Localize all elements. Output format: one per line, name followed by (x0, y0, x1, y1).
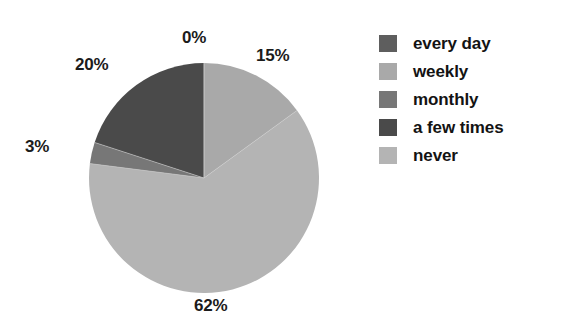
legend-swatch-icon (379, 35, 397, 52)
legend-item-weekly: weekly (379, 59, 575, 84)
legend-swatch-icon (379, 63, 397, 80)
legend-label: never (413, 147, 458, 164)
pie-svg (88, 62, 320, 294)
legend-label: monthly (413, 91, 478, 108)
legend-swatch-icon (379, 119, 397, 136)
chart-legend: every day weekly monthly a few times nev… (379, 31, 575, 171)
legend-item-a-few-times: a few times (379, 115, 575, 140)
legend-item-monthly: monthly (379, 87, 575, 112)
legend-item-every-day: every day (379, 31, 575, 56)
slice-label-a-few-times: 20% (75, 56, 108, 73)
legend-label: a few times (413, 119, 504, 136)
legend-swatch-icon (379, 147, 397, 164)
legend-label: weekly (413, 63, 468, 80)
legend-item-never: never (379, 143, 575, 168)
legend-label: every day (413, 35, 491, 52)
slice-label-every-day: 0% (182, 29, 206, 46)
pie-chart-graphic (88, 62, 320, 294)
slice-label-monthly: 3% (25, 138, 49, 155)
legend-swatch-icon (379, 91, 397, 108)
slice-label-weekly: 15% (256, 47, 289, 64)
pie-chart-figure: 0% 15% 20% 3% 62% every day weekly month… (0, 0, 582, 328)
slice-label-never: 62% (194, 297, 227, 314)
